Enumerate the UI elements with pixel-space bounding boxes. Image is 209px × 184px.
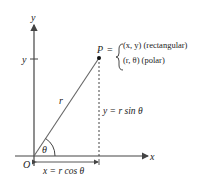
y-tick-label: y xyxy=(21,54,27,65)
point-equals: = xyxy=(107,44,113,55)
point-label: P xyxy=(96,44,103,55)
origin-label: O xyxy=(23,159,30,170)
polar-diagram: y y x O r θ y = r sin θ x = r cos θ P = … xyxy=(0,0,209,184)
point-p xyxy=(97,56,101,60)
x-axis-label: x xyxy=(149,151,155,162)
rect-coords: (x, y) (rectangular) xyxy=(123,40,188,50)
y-axis-label: y xyxy=(30,12,36,23)
angle-arc xyxy=(46,139,55,157)
brace xyxy=(116,44,123,70)
horizontal-label: x = r cos θ xyxy=(42,166,84,176)
radius-label: r xyxy=(59,95,63,106)
vertical-label: y = r sin θ xyxy=(102,106,143,116)
radius-line xyxy=(34,58,99,156)
angle-label: θ xyxy=(42,144,47,155)
polar-coords: (r, θ) (polar) xyxy=(123,55,165,65)
